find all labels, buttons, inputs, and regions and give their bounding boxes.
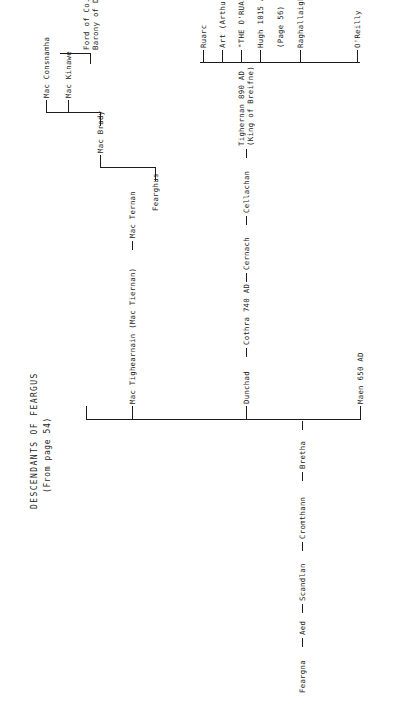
node-aed: Aed — [298, 621, 307, 635]
bracket-feargus-stub — [86, 406, 87, 420]
connector-feargna-aed — [302, 638, 303, 647]
node-cothra: Cothra 740 AD — [242, 284, 251, 345]
connector-dunchad-cothra — [246, 348, 247, 357]
node-ford-line2: Barony of Dromahaire — [91, 0, 100, 50]
page-title-line2: (From page 54) — [41, 372, 54, 509]
bracket-hugh-stub — [260, 50, 261, 63]
genealogy-chart-canvas: DESCENDANTS OF FEARGUS (From page 54) Fe… — [0, 0, 401, 709]
node-cromthann: Cromthann — [298, 497, 307, 539]
bracket-bretha-trunk — [302, 419, 360, 420]
node-oreilly-page-note: (Page 56) — [276, 6, 285, 48]
node-tighernan-label: Tighernan 890 AD — [237, 71, 246, 146]
node-cellachan: Cellachan — [242, 171, 251, 213]
macbrady-upper-trunk — [46, 112, 101, 113]
node-ruarc: Ruarc — [199, 25, 208, 49]
node-mackinawe: Mac Kinawe — [64, 51, 73, 98]
node-art: Art (Arthur) — [218, 0, 227, 48]
bracket-mactighearnain-stub — [132, 406, 133, 420]
page-title: DESCENDANTS OF FEARGUS (From page 54) — [28, 372, 54, 509]
node-ford-line1: Ford of Co. Leitrim — [82, 0, 91, 50]
page-title-line1: DESCENDANTS OF FEARGUS — [30, 372, 39, 509]
bracket-dunchad-stub — [246, 406, 247, 420]
node-maen: Maen 650 AD — [356, 352, 365, 404]
connector-cromthann-bretha — [302, 472, 303, 481]
feargus-stub — [155, 167, 156, 181]
node-oreilly: O'Reilly — [353, 10, 362, 48]
node-hugh: Hugh 1015 AD — [256, 0, 265, 48]
bracket-macbrady-stub — [100, 155, 101, 168]
bracket-orualrc-stub — [241, 50, 242, 63]
connector-cellachan-tighernan — [246, 149, 247, 158]
node-macternan: Mac Ternan — [128, 191, 137, 238]
connector-aed-scandlan — [302, 604, 303, 613]
node-bretha: Bretha — [298, 441, 307, 469]
node-dunchad: Dunchad — [242, 371, 251, 404]
bracket-ruarc-stub — [203, 50, 204, 63]
bracket-art-stub — [222, 50, 223, 63]
feargus-trunk — [100, 167, 156, 168]
node-ford: Ford of Co. Leitrim Barony of Dromahaire — [82, 0, 100, 50]
bracket-macconsnamha-stub — [46, 100, 47, 113]
node-scandlan: Scandlan — [298, 563, 307, 601]
node-feargna: Feargna — [298, 660, 307, 693]
tighernan-split-trunk — [200, 62, 360, 63]
node-mactighearnain: Mac Tighearnain (Mac Tiernan) — [128, 268, 137, 404]
macbrady-upper-stub — [100, 112, 101, 126]
connector-bretha-maen — [302, 421, 303, 430]
node-macconsnamha: Mac Consnamha — [42, 37, 51, 98]
bracket-raghallaigh-stub — [300, 50, 301, 63]
node-tighernan: Tighernan 890 AD (King of Breifne) — [237, 66, 255, 146]
bracket-maen-stub — [360, 406, 361, 420]
node-raghallaigh: Raghallaigh 975 AD — [296, 0, 305, 48]
bracket-oreilly-stub — [357, 50, 358, 63]
ford-stub — [90, 53, 91, 64]
mackinawe-trunk — [60, 53, 90, 54]
connector-cernach-cellachan — [246, 216, 247, 225]
connector-cothra-cernach — [246, 273, 247, 282]
node-orualrc: "THE O'RUAIRC" 960 AD — [237, 0, 246, 48]
main-spine-upper — [86, 419, 247, 420]
connector-scandlan-cromthann — [302, 542, 303, 551]
bracket-mackinawe-stub — [68, 100, 69, 113]
bracket-dunchad-trunk — [246, 419, 303, 420]
node-cernach: Cernach — [242, 237, 251, 270]
connector-mactighearnain-macternan — [132, 241, 133, 250]
node-tighernan-note: (King of Breifne) — [246, 66, 255, 146]
